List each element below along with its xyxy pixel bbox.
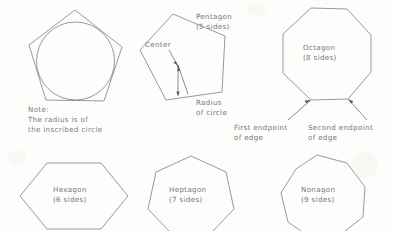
diagram-canvas: Note: The radius is of the inscribed cir… bbox=[0, 0, 395, 231]
note-label-line-3: the inscribed circle bbox=[28, 125, 102, 134]
inscribed-pentagon-note: Note: The radius is of the inscribed cir… bbox=[27, 105, 102, 134]
first-endpoint-label-line-2: of edge bbox=[234, 133, 263, 142]
radius-label-line-2: of circle bbox=[196, 108, 227, 117]
nonagon-group: Nonagon (9 sides) bbox=[281, 155, 365, 231]
annotated-pentagon-group: Center Radius of circle Pentagon (5 side… bbox=[140, 12, 232, 117]
radius-leader-line bbox=[179, 67, 188, 94]
inscribed-circle-shape bbox=[37, 22, 115, 100]
hexagon-group: Hexagon (6 sides) bbox=[20, 163, 128, 229]
radius-dimension-arrowhead bbox=[176, 92, 179, 97]
center-leader-arrowhead bbox=[173, 61, 178, 66]
octagon-group: Octagon (8 sides) First endpoint of edge… bbox=[234, 8, 373, 142]
note-label-line-2: The radius is of bbox=[27, 115, 88, 124]
second-endpoint-label-line-2: of edge bbox=[308, 133, 337, 142]
center-label: Center bbox=[145, 40, 171, 49]
first-endpoint-leader-line bbox=[288, 101, 310, 120]
radius-label-line-1: Radius bbox=[196, 98, 222, 107]
heptagon-label-line-2: (7 sides) bbox=[169, 195, 203, 204]
note-label-line-1: Note: bbox=[28, 105, 49, 114]
inscribed-pentagon-shape bbox=[29, 10, 122, 101]
polygon-diagram: Note: The radius is of the inscribed cir… bbox=[0, 0, 395, 231]
octagon-label-line-2: (8 sides) bbox=[303, 53, 337, 62]
heptagon-label-line-1: Heptagon bbox=[169, 185, 206, 194]
heptagon-group: Heptagon (7 sides) bbox=[148, 156, 234, 231]
hexagon-label-line-1: Hexagon bbox=[53, 185, 87, 194]
nonagon-label-line-1: Nonagon bbox=[301, 185, 335, 194]
pentagon-label-line-2: (5 sides) bbox=[196, 22, 230, 31]
hexagon-label-line-2: (6 sides) bbox=[53, 195, 87, 204]
pentagon-with-inscribed-circle-group bbox=[29, 10, 122, 101]
second-endpoint-leader-line bbox=[349, 100, 367, 120]
second-endpoint-arrowhead bbox=[348, 99, 353, 104]
second-endpoint-label-line-1: Second endpoint bbox=[308, 123, 373, 132]
pentagon-label-line-1: Pentagon bbox=[196, 12, 232, 21]
nonagon-label-line-2: (9 sides) bbox=[301, 195, 335, 204]
octagon-label-line-1: Octagon bbox=[303, 43, 335, 52]
first-endpoint-label-line-1: First endpoint bbox=[234, 123, 288, 132]
